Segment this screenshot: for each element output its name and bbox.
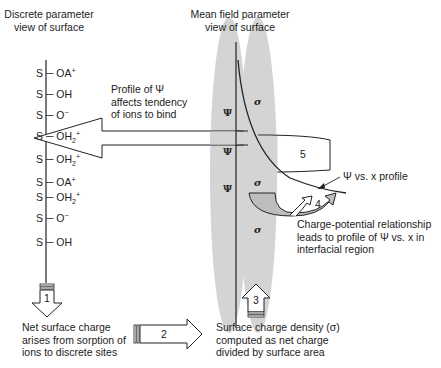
site-row: S ─ OH bbox=[36, 88, 72, 100]
psi-profile-label: Ψ vs. x profile bbox=[343, 170, 408, 183]
psi-symbol: Ψ bbox=[223, 146, 232, 157]
site-row: S ─ O− bbox=[36, 109, 69, 121]
sigma-symbol: σ bbox=[254, 224, 261, 235]
step-1-label: 1 bbox=[44, 292, 50, 305]
site-row: S ─ O− bbox=[36, 212, 69, 224]
step-4-label: 4 bbox=[315, 198, 321, 211]
step-2-label: 2 bbox=[161, 328, 167, 341]
sigma-symbol: σ bbox=[254, 177, 261, 188]
arrow-2-right bbox=[134, 319, 202, 349]
step-3-label: 3 bbox=[253, 294, 259, 307]
sigma-symbol: σ bbox=[254, 96, 261, 107]
discrete-view-header: Discrete parameter view of surface bbox=[4, 8, 94, 33]
charge-density-annotation: Surface charge density (σ) computed as n… bbox=[216, 321, 340, 359]
charge-potential-annotation: Charge-potential relationship leads to p… bbox=[297, 218, 431, 256]
site-row: S ─ OH2+ bbox=[36, 130, 80, 142]
psi-symbol: Ψ bbox=[223, 107, 232, 118]
site-row: S ─ OH2+ bbox=[36, 153, 80, 165]
mean-field-view-header: Mean field parameter view of surface bbox=[180, 8, 300, 33]
site-row: S ─ OH2+ bbox=[36, 191, 80, 203]
site-row: S ─ OA+ bbox=[36, 67, 76, 79]
net-charge-annotation: Net surface charge arises from sorption … bbox=[22, 321, 126, 359]
site-row: S ─ OH bbox=[36, 236, 72, 248]
profile-effect-annotation: Profile of Ψ affects tendency of ions to… bbox=[111, 83, 187, 121]
step-5-label: 5 bbox=[300, 148, 306, 161]
psi-symbol: Ψ bbox=[223, 183, 232, 194]
site-row: S ─ OA+ bbox=[36, 176, 76, 188]
